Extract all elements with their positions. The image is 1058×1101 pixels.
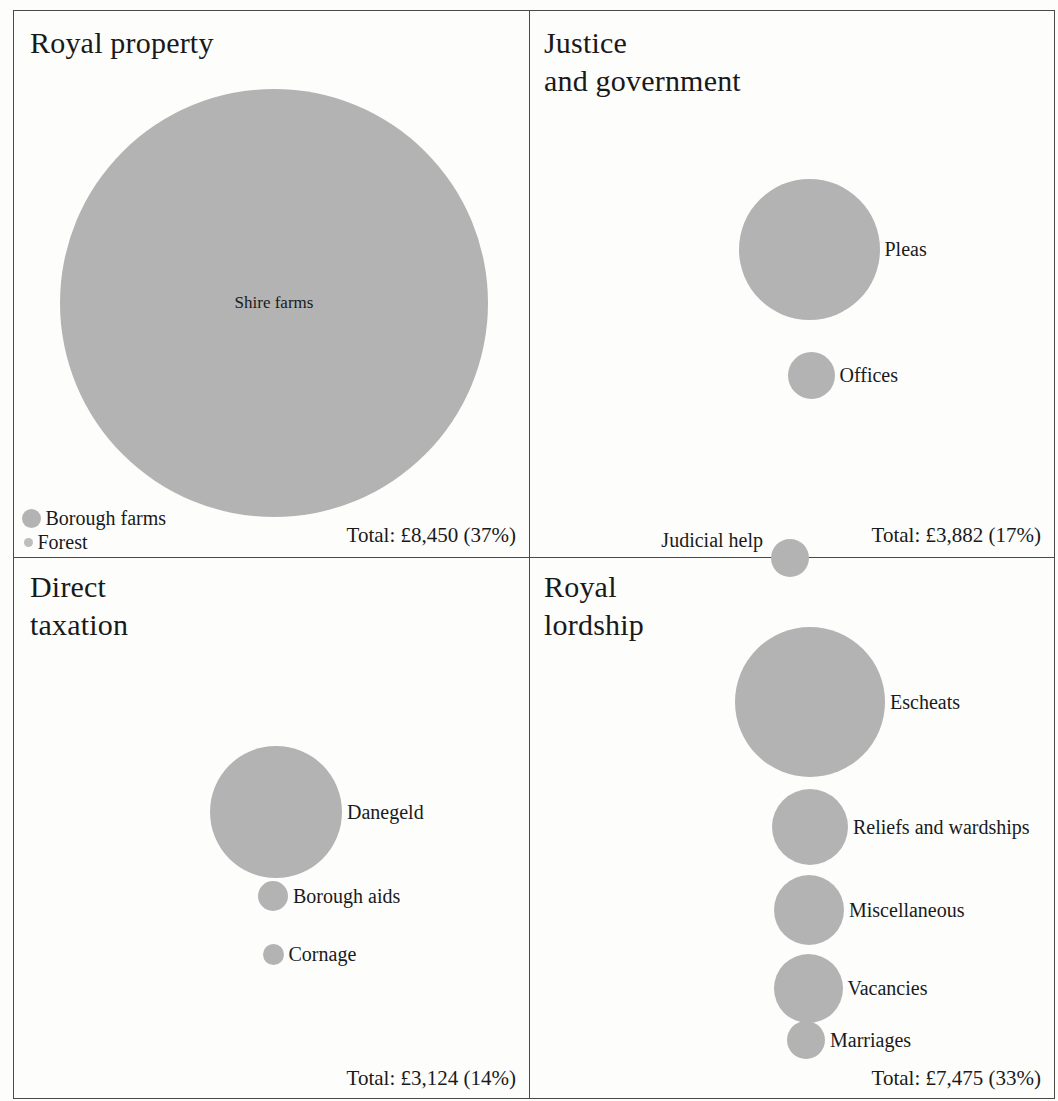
bubble-label-pleas: Pleas — [885, 238, 927, 261]
bubble-pleas[interactable] — [739, 179, 880, 320]
bubble-label-danegeld: Danegeld — [347, 801, 424, 824]
bubble-offices[interactable] — [788, 352, 835, 399]
bubble-danegeld[interactable] — [210, 746, 342, 878]
bubble-vacancies[interactable] — [774, 954, 843, 1023]
bubble-miscellaneous[interactable] — [774, 875, 844, 945]
panel-title: Justice and government — [544, 24, 741, 100]
bubble-label-vacancies: Vacancies — [848, 977, 928, 1000]
bubble-escheats[interactable] — [735, 627, 885, 777]
bubble-label-cornage: Cornage — [289, 943, 357, 966]
bubble-marriages[interactable] — [787, 1021, 825, 1059]
bubble-label-forest: Forest — [38, 531, 88, 554]
panel-title: Direct taxation — [30, 568, 128, 644]
bubble-judicial-help[interactable] — [771, 539, 809, 577]
panel-total: Total: £3,882 (17%) — [872, 523, 1041, 548]
bubble-reliefs-and-wardships[interactable] — [772, 789, 848, 865]
bubble-label-escheats: Escheats — [890, 691, 960, 714]
bubble-label-reliefs-and-wardships: Reliefs and wardships — [853, 816, 1030, 839]
bubble-label-shire-farms: Shire farms — [235, 293, 314, 313]
bubble-cornage[interactable] — [263, 944, 284, 965]
bubble-borough-farms[interactable] — [22, 509, 41, 528]
bubble-forest[interactable] — [24, 538, 33, 547]
panel-total: Total: £7,475 (33%) — [872, 1066, 1041, 1091]
bubble-label-judicial-help: Judicial help — [661, 529, 763, 552]
bubble-borough-aids[interactable] — [258, 881, 288, 911]
bubble-label-miscellaneous: Miscellaneous — [849, 899, 965, 922]
panel-title: Royal lordship — [544, 568, 644, 644]
bubble-label-marriages: Marriages — [830, 1029, 911, 1052]
revenue-bubble-chart: Royal property Total: £8,450 (37%) Justi… — [0, 0, 1058, 1101]
bubble-label-borough-aids: Borough aids — [293, 885, 400, 908]
bubble-label-borough-farms: Borough farms — [46, 507, 167, 530]
panel-total: Total: £3,124 (14%) — [347, 1066, 516, 1091]
bubble-label-offices: Offices — [840, 364, 899, 387]
panel-title: Royal property — [30, 24, 214, 62]
panel-total: Total: £8,450 (37%) — [347, 523, 516, 548]
